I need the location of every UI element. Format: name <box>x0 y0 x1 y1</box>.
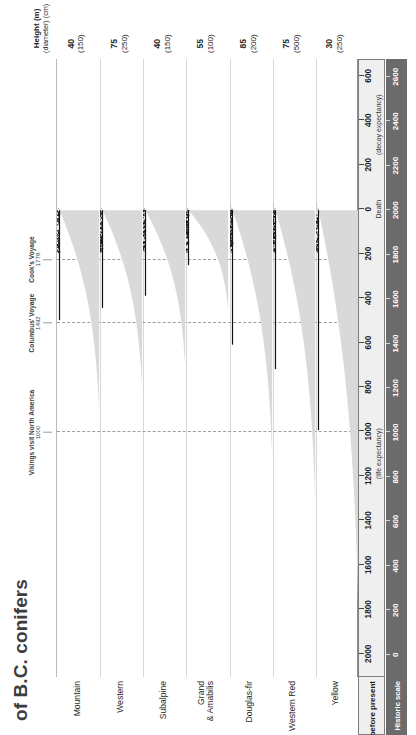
historic-scale-label: 2400 <box>391 112 400 130</box>
historic-scale-label: 800 <box>391 470 400 483</box>
historic-scale-label: 200 <box>391 604 400 617</box>
decay-curve <box>273 95 275 211</box>
height-value-cell: 75(500) <box>282 34 301 53</box>
historic-scale-label: 2600 <box>391 68 400 86</box>
axis-tick-label: 600 <box>364 336 373 350</box>
axis-tick-label: 1800 <box>364 600 373 618</box>
growth-wedge <box>316 59 359 677</box>
height-meters: 85 <box>239 34 249 53</box>
growth-wedge <box>100 59 143 677</box>
species-label: Subalpine <box>159 681 168 735</box>
height-value-cell: 85(200) <box>239 34 258 53</box>
species-label: Douglas-fir <box>245 681 254 735</box>
height-meters: 40 <box>67 34 77 53</box>
axis-tick-label: 1400 <box>364 511 373 529</box>
axis-tick-label: 1200 <box>364 467 373 485</box>
historic-scale-label: 2000 <box>391 201 400 219</box>
diameter-cm: (150) <box>76 34 85 53</box>
decay-expectancy-note: (decay expectancy) <box>375 94 382 155</box>
annotation-columbus: Columbus' Voyage 1492 <box>28 294 52 353</box>
height-meters: 75 <box>110 34 120 53</box>
axis-tick-label: 400 <box>364 291 373 305</box>
species-label: Mountain <box>73 681 82 735</box>
height-meters: 30 <box>325 34 335 53</box>
plot-area <box>56 59 358 677</box>
historic-scale-label: 600 <box>391 515 400 528</box>
diameter-cm: (200) <box>249 34 258 53</box>
decay-curve <box>316 72 318 210</box>
figure-canvas: of B.C. conifers Vikings visit North Ame… <box>0 0 416 735</box>
historic-scale-title: Historic scale <box>392 681 401 730</box>
historic-scale-label: 1200 <box>391 379 400 397</box>
historic-scale-label: 1000 <box>391 424 400 442</box>
historic-scale-label: 2200 <box>391 157 400 175</box>
diameter-cm: (150) <box>163 34 172 53</box>
growth-wedge <box>57 59 100 677</box>
annotation-vikings: Vikings visit North America 1000 <box>28 390 52 475</box>
decay-curve <box>143 190 145 210</box>
historic-scale-tick <box>386 476 390 477</box>
species-label-line1: Yellow <box>331 681 340 735</box>
species-label-line1: Mountain <box>73 681 82 735</box>
height-header-line2: (diameter) (cm) <box>42 4 51 53</box>
annotation-tick-icon <box>43 259 52 260</box>
historic-scale-label: 400 <box>391 559 400 572</box>
axis-tick-label: 200 <box>364 158 373 172</box>
species-lane <box>316 59 359 677</box>
species-lane <box>100 59 143 677</box>
species-lane <box>273 59 316 677</box>
axis-title: Years before present <box>367 681 376 735</box>
years-before-present-axis: 2000180016001400120010008006004002000200… <box>358 59 385 677</box>
death-label: Death <box>375 200 382 219</box>
decay-curve <box>230 137 232 210</box>
decay-curve <box>100 177 102 210</box>
historic-scale-label: 1400 <box>391 335 400 353</box>
species-label-line2: & Amabilis <box>206 681 215 735</box>
growth-wedge <box>186 59 229 677</box>
historic-scale-tick <box>386 254 390 255</box>
growth-wedge <box>230 59 273 677</box>
species-label: Western Red <box>288 681 297 735</box>
species-label-line1: Douglas-fir <box>245 681 254 735</box>
annotation-cook-year: 1778 <box>35 236 42 283</box>
historic-scale-tick <box>386 120 390 121</box>
height-value-cell: 40(150) <box>153 34 172 53</box>
historic-scale-tick <box>386 343 390 344</box>
annotation-tick-icon <box>43 323 52 324</box>
annotation-cook: Cook's Voyage 1778 <box>28 236 52 283</box>
species-label: Grand& Amabilis <box>197 681 216 735</box>
page-title: of B.C. conifers <box>10 579 32 721</box>
diameter-cm: (250) <box>335 34 344 53</box>
species-lane <box>143 59 186 677</box>
historic-scale-tick <box>386 209 390 210</box>
species-lane <box>230 59 273 677</box>
annotation-vikings-year: 1000 <box>35 390 42 475</box>
height-value-cell: 75(250) <box>110 34 129 53</box>
axis-tick-label: 1600 <box>364 556 373 574</box>
annotation-tick-icon <box>43 432 52 433</box>
height-meters: 75 <box>282 34 292 53</box>
historic-scale-tick <box>386 609 390 610</box>
historic-scale-tick <box>386 298 390 299</box>
growth-wedge <box>273 59 316 677</box>
species-lane <box>186 59 229 677</box>
historic-scale-label: 1600 <box>391 290 400 308</box>
axis-tick-label: 600 <box>364 69 373 83</box>
axis-title-backdrop: Years before present <box>358 677 385 735</box>
historic-scale-tick <box>386 387 390 388</box>
historic-scale-label: 0 <box>391 653 400 657</box>
axis-tick-label: 800 <box>364 380 373 394</box>
historic-scale-title-backdrop: Historic scale <box>386 677 407 735</box>
historic-scale-tick <box>386 165 390 166</box>
height-value-cell: 30(250) <box>325 34 344 53</box>
height-meters: 40 <box>153 34 163 53</box>
historic-scale-label: 1800 <box>391 246 400 264</box>
species-label-line1: Subalpine <box>159 681 168 735</box>
species-label-line1: Western Red <box>288 681 297 735</box>
axis-tick-label: 0 <box>364 207 373 212</box>
annotation-columbus-year: 1492 <box>35 294 42 353</box>
historic-scale-tick <box>386 431 390 432</box>
axis-tick-label: 200 <box>364 247 373 261</box>
species-lane <box>57 59 100 677</box>
decay-curve <box>57 186 59 210</box>
